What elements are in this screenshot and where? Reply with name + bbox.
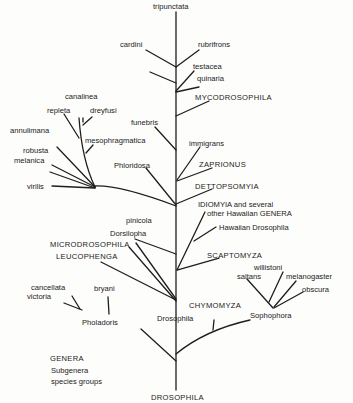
label-cancellata: cancellata — [31, 283, 66, 292]
branch-virilis-repleta-stem — [95, 186, 176, 206]
branch-bryani — [108, 297, 109, 314]
branch-idiomyia — [177, 212, 205, 270]
label-microdrosophila: MICRODROSOPHILA — [50, 240, 130, 249]
legend-species-groups: species groups — [51, 377, 102, 386]
branch-callopterа — [150, 72, 176, 83]
label-dorsilopha: Dorsilopha — [110, 229, 147, 238]
label-hawaiian-drosophila: Hawaiian Drosophila — [219, 223, 289, 232]
label-virilis: virilis — [27, 182, 44, 191]
label-leucophenga: LEUCOPHENGA — [56, 252, 118, 261]
label-pholadoris: Pholadoris — [82, 318, 118, 327]
label-saltans: saltans — [237, 272, 261, 281]
label-idiomyia: IDIOMYIA and several — [198, 200, 273, 209]
branch-dreyfusi — [83, 117, 92, 125]
root-title: DROSOPHILA — [151, 393, 204, 402]
label-canalinea: canalinea — [65, 92, 98, 101]
branch-cardini — [146, 50, 176, 67]
label-immigrans: immigrans — [189, 139, 224, 148]
label-zaprionus: ZAPRIONUS — [199, 160, 246, 169]
branch-willistoni — [269, 272, 283, 302]
branch-chymomyza — [213, 320, 214, 330]
branch-saltans — [247, 279, 273, 308]
label-repleta: repleta — [47, 106, 71, 115]
label-funebris: funebris — [131, 118, 158, 127]
label-mesophragmatica: mesophragmatica — [85, 136, 146, 145]
branch-pinicola — [135, 239, 176, 254]
label-other-hawaiian: other Hawaiian GENERA — [207, 209, 293, 218]
label-robusta: robusta — [23, 146, 49, 155]
label-tripunctata: tripunctata — [153, 2, 189, 11]
label-dettopsomyia: DETTOPSOMYIA — [195, 182, 259, 191]
branch-mycodrosophila — [176, 101, 209, 116]
branch-leucophenga — [101, 262, 176, 300]
label-testacea: testacea — [193, 62, 222, 71]
legend-subgenera: Subgenera — [51, 366, 89, 375]
label-annulimana: annulimana — [10, 126, 50, 135]
branch-funebris — [155, 127, 176, 150]
branch-repleta — [64, 114, 79, 138]
tree-svg: tripunctata cardini rubrifrons testacea … — [0, 0, 353, 403]
label-melanica: melanica — [14, 156, 45, 165]
label-phloridosa: Phloridosa — [114, 161, 151, 170]
label-rubrifrons: rubrifrons — [198, 40, 230, 49]
label-obscura: obscura — [302, 285, 330, 294]
branch-pholadoris — [141, 329, 176, 361]
branch-mesophragmatica — [86, 145, 93, 153]
branch-robusta — [52, 165, 95, 187]
phylogeny-diagram: tripunctata cardini rubrifrons testacea … — [0, 0, 353, 403]
label-mycodrosophila: MYCODROSOPHILA — [195, 93, 272, 102]
branch-victoria — [64, 303, 82, 310]
label-sophophora: Sophophora — [250, 311, 292, 320]
label-pinicola: pinicola — [126, 216, 153, 225]
branch-zaprionus — [177, 168, 212, 181]
label-dreyfusi: dreyfusi — [90, 106, 117, 115]
branch-dorsilopha — [129, 247, 176, 301]
branch-phloridosa — [146, 168, 176, 205]
label-melanogaster: melanogaster — [286, 272, 332, 281]
branch-immigrans — [177, 147, 200, 180]
label-willistoni: willistoni — [253, 263, 283, 272]
label-bryani: bryani — [94, 284, 115, 293]
label-scaptomyza: SCAPTOMYZA — [207, 251, 263, 260]
label-drosophila-subgenus: Drosophila — [157, 314, 194, 323]
branch-obscura — [274, 292, 303, 308]
legend-genera: GENERA — [50, 354, 85, 363]
label-victoria: victoria — [27, 292, 52, 301]
label-chymomyza: CHYMOMYZA — [189, 301, 242, 310]
branch-testacea — [176, 71, 194, 91]
label-cardini: cardini — [120, 40, 143, 49]
label-quinaria: quinaria — [197, 74, 225, 83]
